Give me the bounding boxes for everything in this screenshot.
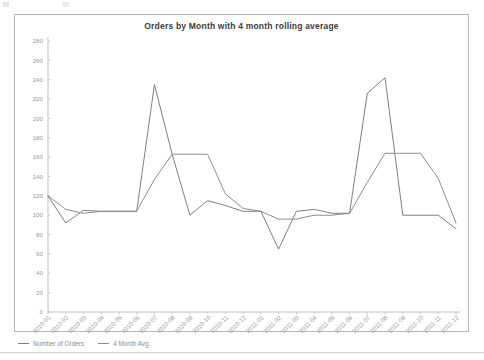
x-tick-label: 2011-12 xyxy=(439,313,460,333)
legend-entry-rolling-average[interactable]: 4 Month Avg. xyxy=(98,340,150,347)
legend-line-swatch xyxy=(18,343,29,344)
y-tick-label: 200 xyxy=(33,115,44,122)
footer-divider xyxy=(0,352,484,353)
y-tick-label: 160 xyxy=(33,153,44,160)
chart-legend: Number of Orders4 Month Avg. xyxy=(18,340,150,347)
y-tick-label: 280 xyxy=(33,37,44,44)
y-tick-label: 80 xyxy=(36,231,43,238)
series-layer xyxy=(48,78,456,249)
y-tick-label: 140 xyxy=(33,173,44,180)
y-tick-label: 20 xyxy=(36,289,43,296)
legend-line-swatch xyxy=(98,343,109,344)
series-line-orders xyxy=(48,78,456,249)
screen-artifact-right xyxy=(62,2,69,7)
legend-label: Number of Orders xyxy=(33,340,84,347)
y-tick-label: 240 xyxy=(33,76,44,83)
y-tick-label: 120 xyxy=(33,192,44,199)
y-tick-label: 180 xyxy=(33,134,44,141)
y-tick-label: 220 xyxy=(33,95,44,102)
y-axis: 020406080100120140160180200220240260280 xyxy=(33,37,51,315)
y-tick-label: 260 xyxy=(33,57,44,64)
y-tick-label: 40 xyxy=(36,269,43,276)
x-axis: 2010-012010-022010-032010-042010-052010-… xyxy=(31,312,460,333)
y-tick-label: 60 xyxy=(36,250,43,257)
legend-entry-orders[interactable]: Number of Orders xyxy=(18,340,84,347)
line-chart-plot: 020406080100120140160180200220240260280 … xyxy=(15,15,470,333)
chart-card: Orders by Month with 4 month rolling ave… xyxy=(14,14,469,332)
y-tick-label: 0 xyxy=(40,308,44,315)
series-line-rolling-average xyxy=(48,153,456,223)
screen-artifact-left xyxy=(3,2,9,7)
legend-label: 4 Month Avg. xyxy=(113,340,150,347)
y-tick-label: 100 xyxy=(33,211,44,218)
